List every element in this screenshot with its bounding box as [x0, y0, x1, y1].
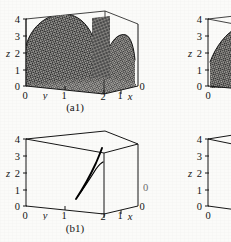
x-axis-label-b1: x: [127, 211, 133, 220]
z-tick-1-a1: 1: [15, 65, 20, 76]
panel-b1-plot: 4 3 2 1 0 z 0 1 2 y 1 x 0: [0, 120, 145, 220]
figure-page: 4 3 2 1 0 z 0 1 2 y 1 x 0 (a1): [0, 0, 231, 242]
z-tick-0-b2: 0: [197, 201, 202, 212]
surface-a1: [26, 14, 136, 94]
z-axis-label-b2: z: [187, 168, 192, 179]
y-axis-label-b1: y: [42, 210, 48, 220]
z-tick-2-b1: 2: [15, 168, 20, 179]
panel-b2-plot: 4 3 2 1 0 z 0: [160, 120, 231, 220]
z-tick-1-b2: 1: [197, 185, 202, 196]
z-tick-4-a1: 4: [15, 14, 21, 25]
x-tick-0-b2: 0: [205, 210, 210, 220]
z-tick-3-a1: 3: [15, 31, 20, 42]
y-tick-0-a1: 0: [22, 90, 27, 100]
x-tick-1-b1: 1: [117, 210, 122, 220]
z-tick-4-a2: 4: [197, 14, 203, 25]
curve-b1-2: [78, 162, 103, 196]
panel-b2: 4 3 2 1 0 z 0: [160, 120, 231, 220]
curves-b1: [76, 148, 103, 199]
z-axis-label-b1: z: [5, 168, 10, 179]
y-axis-label-a1: y: [42, 90, 48, 100]
panel-b1: 4 3 2 1 0 z 0 1 2 y 1 x 0: [0, 120, 145, 220]
z-tick-0-a1: 0: [15, 81, 20, 92]
z-tick-2-a1: 2: [15, 48, 20, 59]
y-tick-2-a1: 2: [100, 91, 105, 100]
z-axis-label-a2: z: [187, 48, 192, 59]
z-tick-3-b1: 3: [15, 151, 20, 162]
z-tick-1-a2: 1: [197, 65, 202, 76]
x-tick-0-a1: 0: [139, 81, 144, 92]
x-tick-1-a1: 1: [117, 90, 122, 100]
panel-a1: 4 3 2 1 0 z 0 1 2 y 1 x 0: [0, 0, 145, 100]
x-axis-label-a1: x: [127, 91, 133, 100]
panel-a2-plot: 4 3 2 1 0 z 0: [160, 0, 231, 100]
y-tick-1-a1: 1: [61, 90, 66, 100]
z-tick-2-a2: 2: [197, 48, 202, 59]
x-tick-0-b1: 0: [139, 201, 144, 212]
z-tick-2-b2: 2: [197, 168, 202, 179]
panel-b1-caption: (b1): [45, 222, 105, 234]
stray-zero-glyph: 0: [143, 182, 148, 193]
panel-a1-caption: (a1): [45, 101, 105, 113]
z-tick-0-b1: 0: [15, 201, 20, 212]
y-tick-0-b1: 0: [22, 210, 27, 220]
curve-b1-1: [76, 148, 102, 199]
panel-a2: 4 3 2 1 0 z 0: [160, 0, 231, 100]
z-tick-4-b1: 4: [15, 134, 21, 145]
z-tick-0-a2: 0: [197, 81, 202, 92]
z-tick-1-b1: 1: [15, 185, 20, 196]
y-tick-2-b1: 2: [100, 211, 105, 220]
y-tick-1-b1: 1: [61, 210, 66, 220]
z-tick-4-b2: 4: [197, 134, 203, 145]
z-tick-3-b2: 3: [197, 151, 202, 162]
axis-box-b1: [26, 131, 138, 214]
panel-a1-plot: 4 3 2 1 0 z 0 1 2 y 1 x 0: [0, 0, 145, 100]
x-tick-0-a2: 0: [205, 90, 210, 100]
z-tick-3-a2: 3: [197, 31, 202, 42]
z-axis-label-a1: z: [5, 48, 10, 59]
